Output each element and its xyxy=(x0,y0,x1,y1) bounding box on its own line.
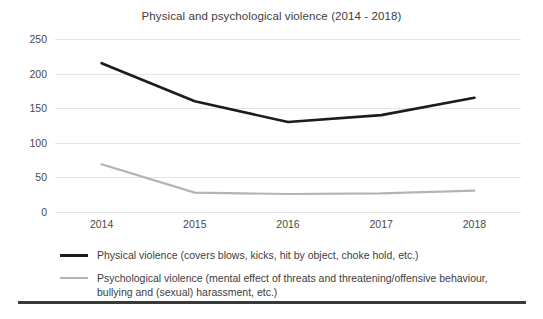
series-lines xyxy=(55,39,521,212)
x-axis-tick-label: 2017 xyxy=(370,218,393,230)
y-axis-tick-label: 100 xyxy=(13,137,47,149)
bottom-divider xyxy=(18,301,526,304)
legend-line-swatch-icon xyxy=(60,277,88,279)
y-axis-tick-label: 250 xyxy=(13,33,47,45)
legend-item-physical-violence: Physical violence (covers blows, kicks, … xyxy=(60,248,520,262)
plot-area xyxy=(55,39,521,212)
legend-item-psychological-violence: Psychological violence (mental effect of… xyxy=(60,271,520,299)
x-axis: 20142015201620172018 xyxy=(55,218,521,234)
legend-item-label: Psychological violence (mental effect of… xyxy=(97,271,520,299)
chart-figure: Physical and psychological violence (201… xyxy=(0,0,543,319)
gridline xyxy=(55,212,521,213)
y-axis-tick-label: 50 xyxy=(13,171,47,183)
x-axis-tick-label: 2018 xyxy=(463,218,486,230)
chart-title: Physical and psychological violence (201… xyxy=(0,10,543,22)
x-axis-tick-label: 2016 xyxy=(276,218,299,230)
legend-line-swatch-icon xyxy=(60,254,88,257)
x-axis-tick-label: 2015 xyxy=(183,218,206,230)
line-physical-violence xyxy=(102,63,475,122)
y-axis-tick-label: 0 xyxy=(13,206,47,218)
y-axis: 050100150200250 xyxy=(13,39,47,212)
x-axis-tick-label: 2014 xyxy=(90,218,113,230)
line-psychological-violence xyxy=(102,164,475,194)
y-axis-tick-label: 150 xyxy=(13,102,47,114)
chart-legend: Physical violence (covers blows, kicks, … xyxy=(60,248,520,308)
legend-item-label: Physical violence (covers blows, kicks, … xyxy=(97,248,419,262)
y-axis-tick-label: 200 xyxy=(13,68,47,80)
